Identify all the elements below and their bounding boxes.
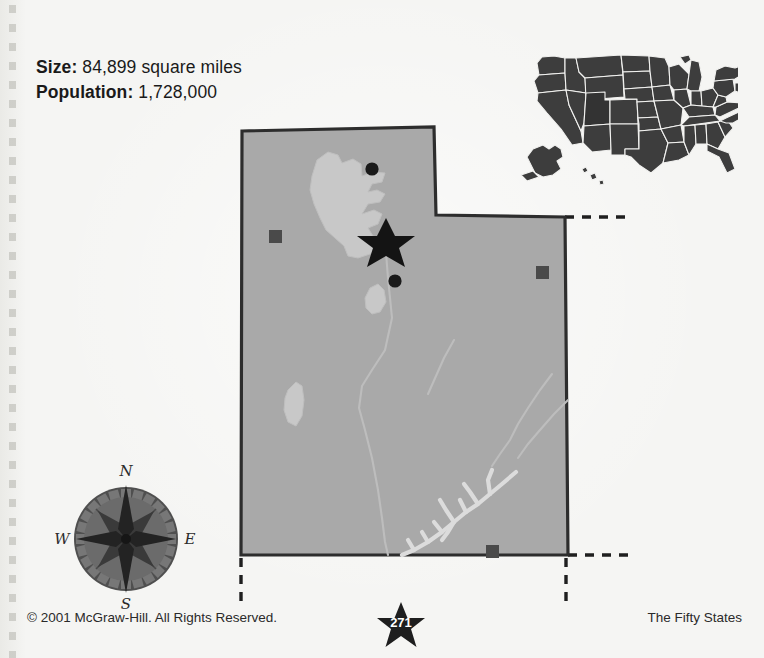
size-stat: Size: 84,899 square miles	[36, 55, 242, 80]
population-value: 1,728,000	[138, 82, 217, 102]
city-dot-south	[388, 274, 401, 287]
population-label: Population:	[36, 82, 133, 102]
utah-state-outline	[241, 127, 568, 555]
population-stat: Population: 1,728,000	[36, 80, 242, 105]
map-page: Size: 84,899 square miles Population: 1,…	[0, 0, 764, 658]
copyright-notice: © 2001 McGraw-Hill. All Rights Reserved.	[27, 610, 277, 625]
size-value: 84,899 square miles	[82, 57, 242, 77]
size-label: Size:	[36, 57, 77, 77]
page-number-badge: 271	[375, 600, 427, 650]
page-number-text: 271	[390, 615, 412, 630]
compass-label-east: E	[184, 530, 196, 548]
landmark-square-southeast	[486, 545, 499, 558]
series-title: The Fifty States	[647, 610, 742, 625]
compass-label-west: W	[54, 530, 71, 548]
state-statistics: Size: 84,899 square miles Population: 1,…	[36, 55, 242, 106]
compass-rose: N E S W	[52, 462, 200, 612]
compass-label-north: N	[118, 462, 133, 480]
city-dot-north	[365, 162, 378, 175]
compass-hub	[121, 534, 131, 544]
binding-marks	[9, 0, 16, 658]
utah-state-map	[222, 118, 622, 588]
landmark-square-west	[269, 230, 282, 243]
landmark-square-east	[536, 266, 549, 279]
